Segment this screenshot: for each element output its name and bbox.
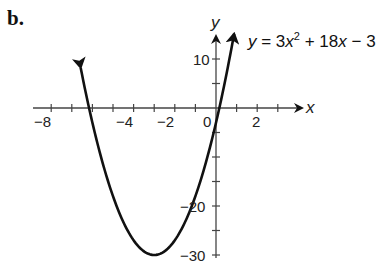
- x-tick-label: −4: [116, 113, 133, 130]
- eq-part: = 3: [257, 32, 286, 51]
- eq-y: y: [248, 32, 257, 51]
- y-tick-label: 10: [193, 51, 210, 68]
- x-tick-label: −2: [157, 113, 174, 130]
- x-tick-label: 0: [203, 113, 211, 130]
- part-label: b.: [7, 6, 24, 31]
- y-tick-label: −30: [180, 247, 205, 262]
- eq-x: x: [285, 32, 294, 51]
- x-axis-label: x: [306, 98, 315, 118]
- eq-part: + 18: [300, 32, 338, 51]
- equation-label: y = 3x2 + 18x − 3: [248, 30, 376, 52]
- eq-part: − 3: [347, 32, 376, 51]
- parabola-curve: [81, 34, 234, 255]
- x-tick-label: −8: [34, 113, 51, 130]
- x-tick-label: 2: [252, 113, 260, 130]
- eq-x: x: [338, 32, 347, 51]
- y-tick-label: −20: [180, 198, 205, 215]
- y-axis-label: y: [211, 13, 220, 33]
